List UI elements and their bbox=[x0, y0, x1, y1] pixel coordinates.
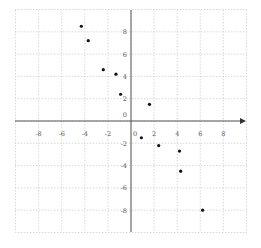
x-axis-arrow-icon bbox=[240, 118, 246, 124]
x-tick-label: -2 bbox=[105, 130, 111, 138]
data-point bbox=[87, 39, 90, 42]
y-tick-label: 6 bbox=[123, 51, 127, 59]
x-tick-label: 0 bbox=[133, 130, 137, 138]
x-tick-labels: -8-6-4-202468 bbox=[35, 130, 225, 138]
y-tick-label: -6 bbox=[121, 184, 127, 192]
data-point bbox=[157, 144, 160, 147]
data-point bbox=[179, 170, 182, 173]
data-point bbox=[178, 150, 181, 153]
y-tick-label: 4 bbox=[123, 73, 127, 81]
y-tick-label: 8 bbox=[123, 28, 127, 36]
y-tick-label: 2 bbox=[123, 95, 127, 103]
data-point bbox=[80, 25, 83, 28]
x-tick-label: 4 bbox=[175, 130, 179, 138]
data-points bbox=[80, 25, 204, 212]
x-tick-label: 6 bbox=[198, 130, 202, 138]
data-point bbox=[140, 136, 143, 139]
data-point bbox=[102, 68, 105, 71]
scatter-chart: -8-6-4-202468 86420-2-4-6-8 bbox=[0, 0, 261, 248]
y-tick-label: -8 bbox=[121, 207, 127, 215]
x-tick-label: 2 bbox=[152, 130, 156, 138]
x-tick-label: -6 bbox=[59, 130, 65, 138]
x-tick-label: -8 bbox=[35, 130, 41, 138]
y-tick-label: -2 bbox=[121, 140, 127, 148]
y-tick-label: 0 bbox=[123, 111, 127, 119]
data-point bbox=[201, 209, 204, 212]
data-point bbox=[148, 103, 151, 106]
data-point bbox=[114, 73, 117, 76]
y-tick-label: -4 bbox=[121, 162, 127, 170]
x-tick-label: -4 bbox=[82, 130, 88, 138]
data-point bbox=[119, 93, 122, 96]
x-tick-label: 8 bbox=[221, 130, 225, 138]
